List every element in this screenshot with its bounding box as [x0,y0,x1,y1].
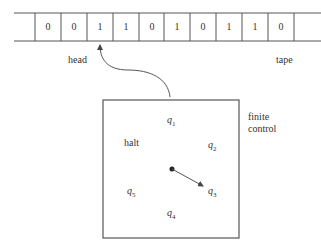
tape-cell: 1 [216,13,242,41]
finite-control-label-2: control [248,123,276,135]
state-q2: q2 [208,139,217,155]
tape-label: tape [276,54,293,66]
tape-cell: 0 [61,13,87,41]
state-pointer-arrow [172,169,203,186]
state-q3: q3 [208,185,217,201]
state-q5: q5 [127,185,136,201]
tape-cell: 0 [35,13,61,41]
tape-cell-head: 1 [87,13,113,41]
tape-cell: 0 [268,13,294,41]
tape-cell: 1 [242,13,268,41]
state-q4: q4 [167,207,176,223]
halt-label: halt [124,137,139,149]
head-label: head [68,54,87,66]
finite-control-label-1: finite [248,111,269,123]
tape-cell: 1 [164,13,190,41]
head-arrow [100,45,170,97]
state-q1: q1 [167,114,176,130]
tape-cell: 0 [190,13,216,41]
tape-cell: 0 [139,13,165,41]
tape-cell: 1 [113,13,139,41]
